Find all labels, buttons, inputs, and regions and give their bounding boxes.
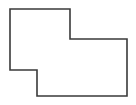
polygon-figure-svg [0,0,136,105]
figure-canvas [0,0,136,105]
